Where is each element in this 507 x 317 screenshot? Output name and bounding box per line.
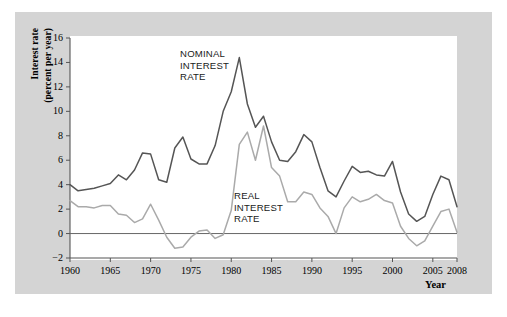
nominal-interest-rate-line <box>70 58 457 222</box>
chart-svg <box>0 0 507 317</box>
figure: Interest rate (percent per year) −202468… <box>0 0 507 317</box>
